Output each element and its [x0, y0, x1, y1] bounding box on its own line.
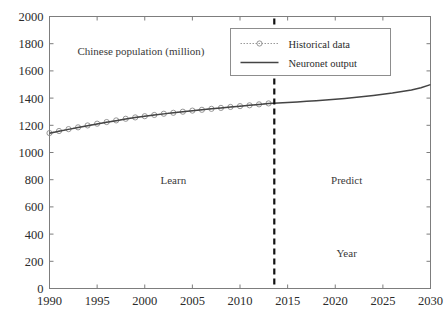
title-annotation: Chinese population (million): [77, 45, 204, 58]
y-tick-label: 400: [25, 228, 44, 242]
x-tick-label: 2020: [323, 294, 348, 308]
x-tick-label: 2010: [228, 294, 253, 308]
y-tick-label: 200: [25, 255, 44, 269]
legend-entry-label: Neuronet output: [289, 58, 358, 69]
x-tick-label: 2025: [370, 294, 395, 308]
chart-container: 199019952000200520102015202020252030 020…: [0, 0, 446, 323]
y-tick-label: 1600: [19, 64, 44, 78]
y-tick-label: 0: [37, 282, 43, 296]
learn-region-label: Learn: [160, 174, 186, 186]
year-axis-label: Year: [337, 247, 358, 259]
x-tick-label: 2000: [132, 294, 157, 308]
y-tick-label: 1000: [19, 146, 44, 160]
x-tick-label: 2030: [418, 294, 443, 308]
x-axis-tick-labels: 199019952000200520102015202020252030: [37, 294, 443, 308]
legend-entry-label: Historical data: [289, 39, 351, 50]
y-tick-label: 600: [25, 200, 44, 214]
population-forecast-chart: 199019952000200520102015202020252030 020…: [0, 0, 446, 323]
x-tick-label: 2015: [275, 294, 300, 308]
y-tick-label: 2000: [19, 10, 44, 24]
predict-region-label: Predict: [331, 174, 362, 186]
x-tick-label: 2005: [180, 294, 205, 308]
x-tick-label: 1995: [85, 294, 110, 308]
y-tick-label: 1400: [19, 92, 44, 106]
y-tick-label: 1200: [19, 119, 44, 133]
chart-legend: Historical dataNeuronet output: [231, 29, 391, 76]
y-tick-label: 800: [25, 173, 44, 187]
y-tick-label: 1800: [19, 37, 44, 51]
